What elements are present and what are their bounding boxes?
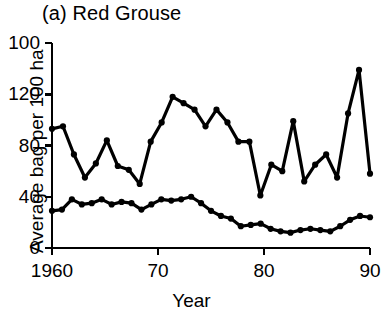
axis-lines bbox=[45, 43, 370, 255]
data-point-marker bbox=[148, 201, 154, 207]
y-tick-label: 80 bbox=[0, 135, 40, 157]
data-point-marker bbox=[208, 208, 214, 214]
data-point-marker bbox=[89, 200, 95, 206]
data-point-marker bbox=[168, 197, 174, 203]
data-point-marker bbox=[277, 228, 283, 234]
data-point-marker bbox=[180, 100, 186, 106]
data-point-marker bbox=[268, 226, 274, 232]
x-tick-label: 70 bbox=[147, 260, 168, 282]
data-point-marker bbox=[317, 227, 323, 233]
series-line bbox=[52, 197, 370, 233]
data-point-marker bbox=[268, 162, 274, 168]
data-point-marker bbox=[334, 174, 340, 180]
data-point-marker bbox=[307, 226, 313, 232]
data-point-marker bbox=[188, 194, 194, 200]
data-point-marker bbox=[79, 201, 85, 207]
data-point-marker bbox=[337, 223, 343, 229]
data-point-marker bbox=[312, 162, 318, 168]
data-point-marker bbox=[228, 215, 234, 221]
y-tick-label: 40 bbox=[0, 186, 40, 208]
data-point-marker bbox=[191, 107, 197, 113]
data-point-marker bbox=[126, 167, 132, 173]
data-point-marker bbox=[248, 222, 254, 228]
data-point-marker bbox=[148, 139, 154, 145]
data-point-marker bbox=[258, 221, 264, 227]
data-point-marker bbox=[327, 228, 333, 234]
y-tick-label: 100 bbox=[0, 32, 40, 54]
series-upper-line bbox=[49, 67, 373, 199]
data-point-marker bbox=[138, 206, 144, 212]
data-point-marker bbox=[345, 110, 351, 116]
data-point-marker bbox=[301, 178, 307, 184]
x-tick-label: 1960 bbox=[31, 260, 73, 282]
data-point-marker bbox=[323, 151, 329, 157]
data-point-marker bbox=[279, 168, 285, 174]
data-point-marker bbox=[115, 163, 121, 169]
data-point-marker bbox=[170, 94, 176, 100]
data-point-marker bbox=[158, 196, 164, 202]
data-point-marker bbox=[367, 171, 373, 177]
data-point-marker bbox=[198, 200, 204, 206]
data-point-marker bbox=[367, 214, 373, 220]
data-point-marker bbox=[99, 196, 105, 202]
data-point-marker bbox=[71, 151, 77, 157]
data-point-marker bbox=[159, 119, 165, 125]
data-point-marker bbox=[257, 192, 263, 198]
data-point-marker bbox=[49, 126, 55, 132]
data-point-marker bbox=[218, 213, 224, 219]
data-point-marker bbox=[235, 139, 241, 145]
y-tick-label: 0 bbox=[0, 237, 40, 259]
data-point-marker bbox=[128, 200, 134, 206]
data-point-marker bbox=[60, 123, 66, 129]
data-point-marker bbox=[357, 213, 363, 219]
series-lower-line bbox=[49, 194, 373, 236]
data-point-marker bbox=[356, 67, 362, 73]
x-tick-label: 80 bbox=[253, 260, 274, 282]
data-point-marker bbox=[238, 223, 244, 229]
data-series-group bbox=[49, 67, 373, 236]
data-point-marker bbox=[246, 139, 252, 145]
data-point-marker bbox=[82, 174, 88, 180]
data-point-marker bbox=[69, 196, 75, 202]
data-point-marker bbox=[118, 199, 124, 205]
data-point-marker bbox=[178, 196, 184, 202]
data-point-marker bbox=[93, 160, 99, 166]
data-point-marker bbox=[287, 230, 293, 236]
data-point-marker bbox=[213, 107, 219, 113]
x-tick-label: 90 bbox=[359, 260, 380, 282]
data-point-marker bbox=[224, 119, 230, 125]
data-point-marker bbox=[347, 217, 353, 223]
data-point-marker bbox=[202, 123, 208, 129]
series-line bbox=[52, 70, 370, 196]
data-point-marker bbox=[290, 118, 296, 124]
data-point-marker bbox=[137, 181, 143, 187]
data-point-marker bbox=[49, 208, 55, 214]
data-point-marker bbox=[297, 227, 303, 233]
chart-figure: (a) Red Grouse Average bag per 100 ha Ye… bbox=[0, 0, 383, 322]
data-point-marker bbox=[109, 201, 115, 207]
y-tick-label: 120 bbox=[0, 83, 40, 105]
data-point-marker bbox=[59, 206, 65, 212]
data-point-marker bbox=[104, 137, 110, 143]
